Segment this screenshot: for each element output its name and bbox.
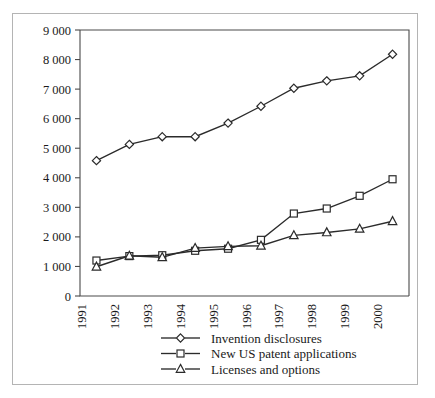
- data-point-diamond: [158, 133, 166, 141]
- y-tick-label: 3 000: [43, 201, 71, 215]
- x-tick-label: 1991: [75, 304, 89, 329]
- data-point-square: [290, 210, 297, 217]
- y-tick-label: 5 000: [43, 142, 71, 156]
- y-tick-label: 6 000: [43, 112, 71, 126]
- legend-item[interactable]: New US patent applications: [161, 346, 357, 361]
- line-chart: 01 0002 0003 0004 0005 0006 0007 0008 00…: [13, 14, 417, 384]
- x-tick-label: 1993: [141, 304, 155, 329]
- series-triangle: [92, 217, 397, 270]
- y-tick-label: 1 000: [43, 260, 71, 274]
- series-line: [96, 179, 392, 260]
- data-point-diamond: [191, 133, 199, 141]
- legend-label: New US patent applications: [211, 346, 357, 361]
- data-point-square: [389, 176, 396, 183]
- y-tick-label: 2 000: [43, 230, 71, 244]
- data-point-diamond: [323, 77, 331, 85]
- x-tick-label: 1996: [240, 304, 254, 329]
- x-tick-label: 2000: [371, 304, 385, 329]
- legend-item[interactable]: Licenses and options: [161, 362, 320, 377]
- y-tick-label: 8 000: [43, 53, 71, 67]
- y-axis-ticks: 01 0002 0003 0004 0005 0006 0007 0008 00…: [43, 24, 80, 304]
- legend-item[interactable]: Invention disclosures: [161, 331, 322, 346]
- y-tick-label: 9 000: [43, 24, 71, 38]
- data-point-square: [356, 192, 363, 199]
- x-axis-ticks: 1991199219931994199519961997199819992000: [75, 303, 385, 329]
- chart-legend: Invention disclosuresNew US patent appli…: [161, 331, 357, 377]
- data-point-diamond: [224, 119, 232, 127]
- x-tick-label: 1994: [174, 303, 188, 329]
- legend-label: Invention disclosures: [211, 331, 322, 346]
- x-tick-label: 1999: [338, 304, 352, 329]
- data-point-square: [323, 205, 330, 212]
- data-point-diamond: [356, 72, 364, 80]
- series-square: [93, 176, 396, 264]
- data-point-diamond: [257, 102, 265, 110]
- x-tick-label: 1998: [305, 304, 319, 329]
- y-tick-label: 4 000: [43, 171, 71, 185]
- chart-figure: 01 0002 0003 0004 0005 0006 0007 0008 00…: [12, 13, 418, 385]
- legend-marker-triangle: [176, 364, 184, 372]
- legend-label: Licenses and options: [211, 362, 320, 377]
- legend-marker-square: [177, 350, 184, 357]
- data-point-diamond: [125, 140, 133, 148]
- data-point-diamond: [290, 84, 298, 92]
- data-point-triangle: [388, 217, 396, 225]
- y-tick-label: 7 000: [43, 83, 71, 97]
- series-diamond: [92, 50, 396, 165]
- series-line: [96, 54, 392, 160]
- x-tick-label: 1992: [108, 304, 122, 329]
- legend-marker-diamond: [176, 334, 184, 342]
- x-tick-label: 1995: [207, 304, 221, 329]
- data-point-diamond: [92, 157, 100, 165]
- y-tick-label: 0: [65, 290, 71, 304]
- x-tick-label: 1997: [272, 304, 286, 329]
- data-point-diamond: [388, 50, 396, 58]
